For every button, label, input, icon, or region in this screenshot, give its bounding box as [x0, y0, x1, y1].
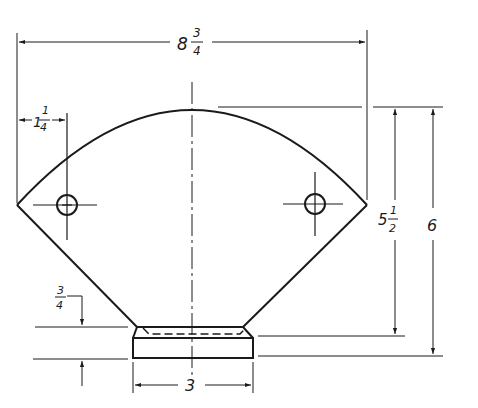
dim-base-height: 3 4	[55, 284, 66, 312]
right-side-edge	[243, 205, 367, 327]
left-side-edge	[17, 205, 137, 327]
dim-arc-height: 5 1 2	[378, 204, 398, 235]
right-hole	[283, 172, 343, 236]
svg-text:3: 3	[193, 26, 201, 40]
svg-text:3: 3	[57, 284, 64, 297]
svg-text:2: 2	[389, 222, 396, 235]
dim-overall-width: 8 3 4	[177, 26, 203, 58]
svg-text:4: 4	[40, 121, 47, 134]
dim-overall-height: 6	[427, 216, 437, 235]
base-block	[133, 338, 253, 358]
svg-text:4: 4	[193, 44, 201, 58]
dim-base-width: 3	[185, 376, 195, 395]
technical-drawing: 8 3 4 1 1 4 5 1 2 6 3 4 3	[0, 0, 478, 408]
svg-text:1: 1	[42, 104, 49, 117]
svg-text:4: 4	[56, 299, 63, 312]
svg-text:1: 1	[390, 204, 397, 217]
base	[133, 327, 253, 358]
svg-text:8: 8	[177, 34, 188, 54]
hidden-line	[143, 328, 246, 334]
dim-hole-offset: 1 1 4	[33, 104, 50, 134]
svg-text:5: 5	[378, 211, 388, 229]
